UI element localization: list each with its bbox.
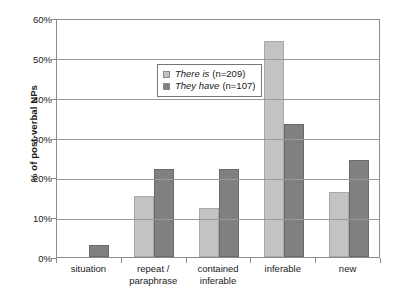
bar-new-series-1: [349, 160, 369, 257]
plot-area: [56, 19, 380, 258]
bar-inferable-series-0: [264, 41, 284, 257]
x-axis-label-line: paraphrase: [121, 275, 186, 287]
legend-swatch-icon: [163, 83, 170, 90]
x-axis-label: repeat /paraphrase: [121, 263, 186, 286]
legend-swatch-icon: [163, 71, 170, 78]
y-tick-label: 60%: [4, 14, 52, 25]
gridline: [57, 139, 379, 140]
bar-repeat-paraphrase-series-1: [154, 169, 174, 257]
y-tick-label: 20%: [4, 173, 52, 184]
legend-label: They have: [175, 80, 219, 92]
x-axis-label: containedinferable: [186, 263, 251, 286]
x-axis-label-line: repeat /: [121, 263, 186, 275]
x-tick-mark: [380, 258, 381, 263]
y-axis-ticks: 0%10%20%30%40%50%60%: [0, 19, 52, 258]
x-axis-label: new: [315, 263, 380, 275]
bar-chart: % of post-verbal NPs 0%10%20%30%40%50%60…: [0, 0, 398, 298]
x-axis-label-line: contained: [186, 263, 251, 275]
y-tick-label: 50%: [4, 53, 52, 64]
y-tick-label: 0%: [4, 253, 52, 264]
legend: There is(n=209)They have(n=107): [157, 64, 262, 97]
bar-repeat-paraphrase-series-0: [134, 196, 154, 257]
bar-inferable-series-1: [284, 124, 304, 257]
bar-contained-inferable-series-0: [199, 208, 219, 257]
bar-contained-inferable-series-1: [219, 169, 239, 257]
y-tick-label: 30%: [4, 133, 52, 144]
legend-label: There is: [175, 68, 209, 80]
x-axis-label-line: situation: [56, 263, 121, 275]
legend-item: There is(n=209): [163, 68, 255, 80]
legend-item: They have(n=107): [163, 80, 255, 92]
x-axis-label-line: inferable: [186, 275, 251, 287]
legend-count: (n=107): [222, 80, 255, 92]
gridline: [57, 219, 379, 220]
legend-count: (n=209): [212, 68, 245, 80]
bar-situation-series-1: [89, 245, 109, 257]
gridline: [57, 59, 379, 60]
x-axis-label: inferable: [250, 263, 315, 275]
x-axis-label-line: new: [315, 263, 380, 275]
y-tick-label: 10%: [4, 213, 52, 224]
y-tick-label: 40%: [4, 93, 52, 104]
bar-new-series-0: [329, 192, 349, 257]
x-axis-label-line: inferable: [250, 263, 315, 275]
gridline: [57, 99, 379, 100]
x-axis-label: situation: [56, 263, 121, 275]
gridline: [57, 179, 379, 180]
